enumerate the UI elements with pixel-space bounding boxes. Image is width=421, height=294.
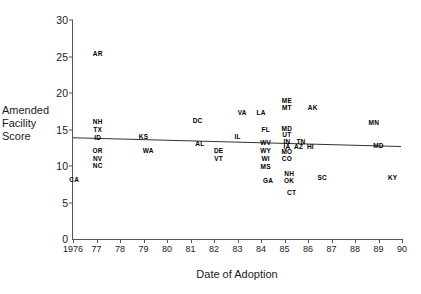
- data-point-label: IL: [234, 134, 240, 141]
- y-axis-tick-label: 25: [56, 51, 68, 62]
- x-axis-tick-label: 77: [91, 245, 101, 254]
- data-point-label: WV: [260, 139, 271, 146]
- data-point-label: DC: [193, 117, 203, 124]
- x-axis-tick-mark: [144, 239, 145, 243]
- data-point-label: AZ: [294, 144, 303, 151]
- data-point-label: NH: [93, 119, 103, 126]
- data-point-label: VA: [238, 110, 247, 117]
- data-point-label: KS: [139, 134, 148, 141]
- x-axis-tick-label: 88: [350, 245, 360, 254]
- data-point-label: DE: [214, 147, 223, 154]
- data-point-label: MT: [282, 105, 292, 112]
- data-point-label: HI: [307, 144, 314, 151]
- y-axis-tick-mark: [69, 129, 73, 130]
- x-axis-tick-label: 85: [279, 245, 289, 254]
- data-point-label: AR: [93, 51, 103, 58]
- trend-line: [73, 20, 402, 239]
- x-axis-tick-mark: [285, 239, 286, 243]
- x-axis-tick-label: 82: [209, 245, 219, 254]
- x-axis-tick-label: 79: [138, 245, 148, 254]
- x-axis-tick-mark: [261, 239, 262, 243]
- y-axis-title-line-1: Amended: [2, 104, 68, 117]
- data-point-label: VT: [214, 155, 223, 162]
- data-point-label: GA: [263, 177, 273, 184]
- data-point-label: KY: [388, 175, 397, 182]
- data-point-label: MS: [261, 163, 271, 170]
- data-point-label: SC: [317, 175, 326, 182]
- x-axis-tick-mark: [379, 239, 380, 243]
- x-axis-tick-mark: [355, 239, 356, 243]
- x-axis-tick-label: 87: [326, 245, 336, 254]
- x-axis-tick-mark: [73, 239, 74, 243]
- data-point-label: OR: [93, 147, 103, 154]
- y-axis-tick-label: 5: [62, 197, 68, 208]
- x-axis-tick-mark: [191, 239, 192, 243]
- data-point-label: FL: [262, 126, 270, 133]
- x-axis-tick-mark: [238, 239, 239, 243]
- y-axis-tick-label: 10: [56, 161, 68, 172]
- data-point-label: MD: [373, 142, 384, 149]
- data-point-label: MN: [369, 120, 380, 127]
- y-axis-tick-label: 30: [56, 15, 68, 26]
- data-point-label: WY: [260, 147, 271, 154]
- y-axis-tick-mark: [69, 166, 73, 167]
- x-axis-tick-mark: [402, 239, 403, 243]
- data-point-label: ID: [94, 134, 101, 141]
- x-axis-tick-mark: [308, 239, 309, 243]
- x-axis-tick-label: 89: [373, 245, 383, 254]
- x-axis-tick-mark: [214, 239, 215, 243]
- x-axis-tick-mark: [332, 239, 333, 243]
- data-point-label: WA: [143, 147, 154, 154]
- y-axis-tick-mark: [69, 93, 73, 94]
- x-axis-tick-label: 80: [162, 245, 172, 254]
- data-point-label: AK: [308, 105, 318, 112]
- y-axis-tick-mark: [69, 20, 73, 21]
- y-axis-tick-label: 20: [56, 88, 68, 99]
- x-axis-tick-label: 90: [397, 245, 407, 254]
- plot-area: CAARNHTXIDORNVNCKSWADCALDEVTILVALAFLWVWY…: [72, 20, 402, 240]
- data-point-label: LA: [256, 110, 265, 117]
- x-axis-tick-label: 83: [232, 245, 242, 254]
- y-axis-tick-mark: [69, 202, 73, 203]
- x-axis-tick-label: 78: [115, 245, 125, 254]
- x-axis-tick-label: 1976: [63, 245, 83, 254]
- data-point-label: CT: [287, 190, 296, 197]
- y-axis-tick-label: 0: [62, 234, 68, 245]
- scatter-plot-figure: Amended Facility Score CAARNHTXIDORNVNCK…: [0, 0, 421, 294]
- data-point-label: CO: [282, 156, 292, 163]
- plot-inner: CAARNHTXIDORNVNCKSWADCALDEVTILVALAFLWVWY…: [73, 20, 402, 239]
- x-axis-tick-label: 84: [256, 245, 266, 254]
- x-axis-tick-mark: [120, 239, 121, 243]
- x-axis-tick-mark: [167, 239, 168, 243]
- data-point-label: OK: [284, 177, 294, 184]
- y-axis-tick-mark: [69, 56, 73, 57]
- x-axis-title: Date of Adoption: [72, 268, 402, 281]
- x-axis-tick-mark: [97, 239, 98, 243]
- x-axis-tick-label: 81: [185, 245, 195, 254]
- x-axis-tick-label: 86: [303, 245, 313, 254]
- data-point-label: CA: [69, 177, 79, 184]
- data-point-label: NC: [93, 163, 103, 170]
- data-point-label: AL: [195, 141, 204, 148]
- data-point-label: WI: [262, 155, 270, 162]
- y-axis-tick-label: 15: [56, 124, 68, 135]
